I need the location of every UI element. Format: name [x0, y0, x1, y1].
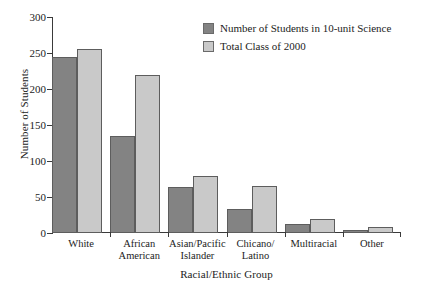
- bar-chart-figure: Number of Students 050100150200250300 Ra…: [0, 0, 421, 289]
- y-axis-tick-label: 250: [6, 48, 46, 59]
- bar: [135, 75, 160, 233]
- y-axis-tick-label: 150: [6, 120, 46, 131]
- bar: [77, 49, 102, 233]
- y-axis-tick-label: 50: [6, 192, 46, 203]
- x-axis-tick: [168, 232, 169, 237]
- y-axis-tick-label: 100: [6, 156, 46, 167]
- y-axis-tick: [47, 17, 53, 18]
- x-axis-tick: [285, 232, 286, 237]
- x-axis-tick: [400, 232, 401, 237]
- bar: [52, 57, 77, 233]
- legend-swatch: [203, 23, 214, 34]
- x-axis-tick: [227, 232, 228, 237]
- x-axis-tick: [110, 232, 111, 237]
- bar: [193, 176, 218, 233]
- bar: [252, 186, 277, 233]
- y-axis-tick: [47, 53, 53, 54]
- bar: [285, 224, 310, 233]
- legend-item: Number of Students in 10-unit Science: [203, 21, 391, 35]
- chart-legend: Number of Students in 10-unit ScienceTot…: [203, 21, 391, 57]
- bar: [343, 230, 368, 233]
- bar: [110, 136, 135, 233]
- x-axis-category-label: Other: [327, 238, 417, 250]
- legend-label: Total Class of 2000: [220, 40, 306, 52]
- y-axis-tick: [47, 233, 53, 234]
- bar: [168, 187, 193, 233]
- y-axis-tick-label: 200: [6, 84, 46, 95]
- x-axis-tick: [343, 232, 344, 237]
- y-axis-tick-label: 0: [6, 228, 46, 239]
- bar: [227, 209, 252, 233]
- bar: [368, 227, 393, 233]
- legend-label: Number of Students in 10-unit Science: [220, 22, 391, 34]
- bar: [310, 219, 335, 233]
- y-axis-tick-label: 300: [6, 12, 46, 23]
- legend-item: Total Class of 2000: [203, 39, 391, 53]
- legend-swatch: [203, 41, 214, 52]
- x-axis-title: Racial/Ethnic Group: [52, 268, 401, 280]
